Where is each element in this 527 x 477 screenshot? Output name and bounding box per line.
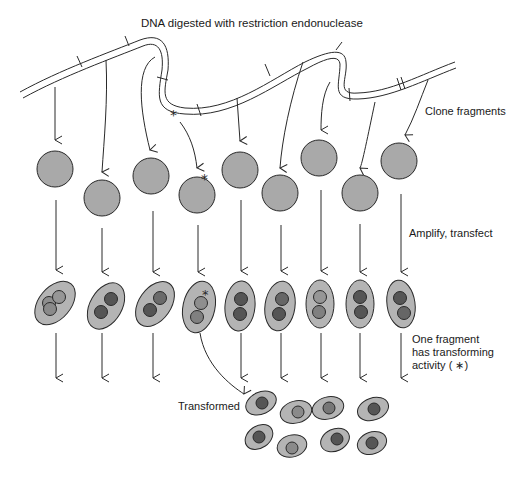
clone-circle [262, 175, 298, 211]
transfected-cells [27, 274, 419, 336]
clone-circle [133, 158, 169, 194]
cell-asterisk: * [202, 287, 209, 302]
clone-circle [342, 175, 378, 211]
clone-circles [37, 140, 417, 216]
transformed-cells [240, 386, 391, 460]
outcome-arrows [56, 333, 401, 394]
clone-circle [222, 152, 258, 188]
clone-circle [381, 143, 417, 179]
cell [27, 274, 84, 333]
clone-asterisk: * [201, 171, 208, 187]
clone-circle [37, 151, 73, 187]
clone-circle [301, 140, 337, 176]
clone-circle [84, 180, 120, 216]
clone-circle [179, 177, 215, 213]
transforming-site-asterisk: * [170, 107, 177, 123]
dna-strand [20, 38, 456, 115]
diagram-canvas: * * [0, 0, 527, 477]
